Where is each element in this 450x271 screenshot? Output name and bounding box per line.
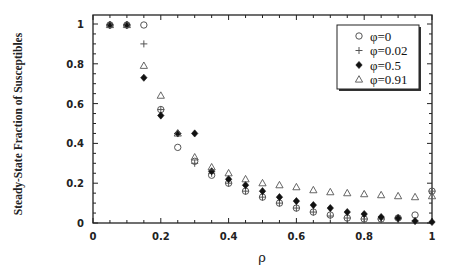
plus-marker (140, 40, 147, 47)
circle-marker (141, 22, 147, 28)
triangle-marker (293, 183, 300, 189)
y-axis-label: Steady-State Fraction of Susceptibles (12, 32, 25, 215)
legend-label: φ=0 (370, 29, 391, 44)
triangle-marker (242, 175, 249, 181)
y-tick-label: 1 (77, 19, 84, 30)
triangle-marker (344, 189, 351, 195)
x-tick-label: 0.8 (355, 231, 373, 242)
diamond-marker (192, 130, 198, 137)
triangle-marker (378, 191, 385, 197)
triangle-marker (225, 169, 232, 175)
x-axis-label: ρ (258, 250, 266, 265)
x-tick-label: 0.6 (288, 231, 306, 242)
diamond-marker (310, 201, 316, 208)
diamond-marker (327, 204, 333, 211)
x-tick-label: 1 (429, 231, 436, 242)
y-tick-label: 0.2 (66, 178, 84, 189)
triangle-marker (259, 179, 266, 185)
diamond-marker (242, 182, 248, 189)
diamond-marker (208, 168, 214, 175)
triangle-marker (361, 190, 368, 196)
y-tick-label: 0.4 (66, 138, 84, 149)
triangle-marker (140, 62, 147, 68)
legend-label: φ=0.91 (370, 72, 408, 87)
y-tick-label: 0.8 (66, 59, 84, 70)
circle-marker (175, 144, 181, 150)
diamond-marker (429, 218, 435, 225)
legend: φ=0φ=0.02φ=0.5φ=0.91 (337, 25, 421, 91)
triangle-marker (411, 193, 418, 199)
x-tick-label: 0.2 (152, 231, 170, 242)
legend-label: φ=0.5 (370, 58, 401, 73)
y-tick-label: 0 (77, 218, 84, 229)
triangle-marker (157, 92, 164, 98)
triangle-marker (395, 192, 402, 198)
legend-label: φ=0.02 (370, 43, 408, 58)
diamond-marker (344, 208, 350, 215)
diamond-marker (276, 194, 282, 201)
diamond-marker (259, 188, 265, 195)
x-tick-label: 0 (90, 231, 97, 242)
triangle-marker (310, 186, 317, 192)
diamond-marker (225, 176, 231, 183)
y-tick-label: 0.6 (66, 99, 84, 110)
plus-marker (191, 160, 198, 167)
triangle-marker (327, 188, 334, 194)
diamond-marker (293, 198, 299, 205)
triangle-marker (276, 181, 283, 187)
scatter-chart: 00.20.40.60.8100.20.40.60.81 φ=0φ=0.02φ=… (0, 0, 450, 271)
diamond-marker (141, 74, 147, 81)
diamond-marker (378, 213, 384, 220)
x-tick-label: 0.4 (220, 231, 238, 242)
diamond-marker (158, 112, 164, 119)
